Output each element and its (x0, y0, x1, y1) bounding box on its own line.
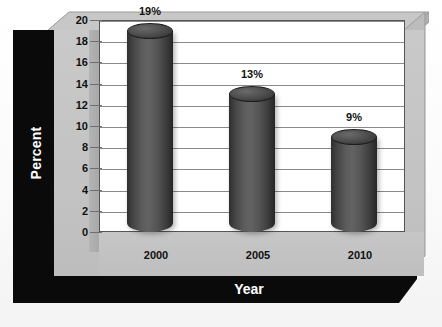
y-axis-tick-label: 6 (54, 162, 88, 174)
bar-2005[interactable]: 13% (229, 94, 275, 232)
bar-2000[interactable]: 19% (127, 31, 173, 232)
bar-body (331, 137, 377, 232)
y-axis-tick-label: 18 (54, 35, 88, 47)
y-axis-tick-label: 14 (54, 78, 88, 90)
bar-body (229, 94, 275, 232)
y-axis-tick-mark (90, 126, 102, 127)
chart-3d-block: Percent 0246810121416182019%200013%20059… (13, 6, 429, 303)
gridline (100, 21, 404, 22)
y-axis-tick-label: 16 (54, 56, 88, 68)
y-axis-tick-mark (90, 20, 102, 21)
y-axis-tick-label: 0 (54, 226, 88, 238)
bar-top-ellipse (127, 23, 173, 39)
y-axis-tick-label: 8 (54, 141, 88, 153)
bar-top-ellipse (331, 129, 377, 145)
y-axis-title-label: Percent (28, 127, 44, 180)
y-axis-tick-label: 4 (54, 184, 88, 196)
y-axis-tick-mark (90, 168, 102, 169)
bar-value-label: 9% (346, 111, 362, 123)
y-axis-tick-mark (90, 41, 102, 42)
bar-value-label: 19% (139, 5, 161, 17)
y-axis-tick-mark (90, 147, 102, 148)
y-axis-tick-mark (90, 84, 102, 85)
bar-body (127, 31, 173, 232)
y-axis-title: Percent (18, 30, 54, 276)
y-axis-tick-mark (90, 105, 102, 106)
y-axis-tick-label: 20 (54, 14, 88, 26)
y-axis-tick-mark (90, 211, 102, 212)
y-axis-tick-mark (90, 62, 102, 63)
bar-2010[interactable]: 9% (331, 137, 377, 232)
y-axis-tick-label: 12 (54, 99, 88, 111)
x-axis-title: Year (99, 281, 399, 297)
x-axis-tick-label: 2005 (246, 249, 270, 261)
x-axis-tick-label: 2010 (348, 249, 372, 261)
y-axis-tick-label: 2 (54, 205, 88, 217)
page-background: Percent 0246810121416182019%200013%20059… (0, 0, 442, 327)
bar-value-label: 13% (241, 68, 263, 80)
y-axis-tick-mark (90, 190, 102, 191)
y-axis-tick-label: 10 (54, 120, 88, 132)
y-axis-tick-mark (90, 232, 102, 233)
x-axis-tick-label: 2000 (144, 249, 168, 261)
